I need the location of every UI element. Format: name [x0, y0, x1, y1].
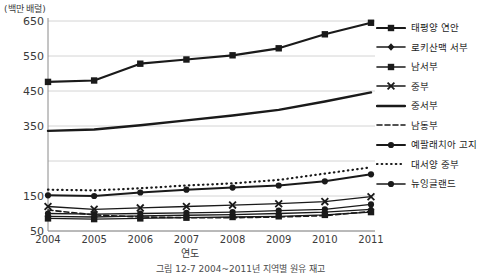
- chart-container: (백만 배럴) 65055045035015050 20042005200620…: [0, 0, 481, 273]
- legend-item-로키산맥 서부[interactable]: 로키산맥 서부: [376, 38, 481, 58]
- legend-item-중부[interactable]: 중부: [376, 77, 481, 97]
- legend-symbol-icon: [376, 119, 406, 131]
- legend-label: 남동부: [411, 121, 438, 131]
- legend-label: 대서양 중부: [411, 160, 459, 170]
- legend-label: 중부: [411, 82, 429, 92]
- series-예팔래치아 고지: [45, 171, 374, 199]
- y-axis-tick-450: 450: [4, 85, 44, 98]
- legend-item-남동부[interactable]: 남동부: [376, 116, 481, 136]
- x-axis-title: 연도: [0, 245, 380, 260]
- legend-item-대서양 중부[interactable]: 대서양 중부: [376, 155, 481, 175]
- y-axis-tick-550: 550: [4, 50, 44, 63]
- y-axis-tick-labels: 65055045035015050: [0, 0, 44, 273]
- legend-label: 뉴잉글랜드: [411, 179, 456, 189]
- legend-symbol-icon: [376, 100, 406, 112]
- x-axis-tick-2010: 2010: [303, 234, 347, 245]
- x-axis-tick-2006: 2006: [118, 234, 162, 245]
- legend-label: 예팔래치아 고지: [411, 140, 477, 150]
- series-대서양 중부: [48, 167, 371, 190]
- legend-label: 남서부: [411, 62, 438, 72]
- legend-symbol-icon: [376, 41, 406, 53]
- x-axis-tick-2004: 2004: [26, 234, 70, 245]
- x-axis-tick-2009: 2009: [257, 234, 301, 245]
- legend-label: 태평양 연안: [411, 23, 459, 33]
- legend-symbol-icon: [376, 22, 406, 34]
- series-태평양 연안: [45, 20, 374, 86]
- legend-symbol-icon: [376, 61, 406, 73]
- legend-item-예팔래치아 고지[interactable]: 예팔래치아 고지: [376, 135, 481, 155]
- series-중서부: [48, 92, 371, 130]
- chart-legend: 태평양 연안로키산맥 서부남서부중부중서부남동부예팔래치아 고지대서양 중부뉴잉…: [376, 18, 481, 194]
- legend-item-뉴잉글랜드[interactable]: 뉴잉글랜드: [376, 174, 481, 194]
- x-axis-tick-2011: 2011: [349, 234, 393, 245]
- legend-item-중서부[interactable]: 중서부: [376, 96, 481, 116]
- x-axis-tick-2007: 2007: [164, 234, 208, 245]
- legend-label: 로키산맥 서부: [411, 43, 468, 53]
- figure-caption: 그림 12-7 2004~2011년 지역별 원유 재고: [0, 262, 481, 273]
- legend-symbol-icon: [376, 158, 406, 170]
- legend-item-남서부[interactable]: 남서부: [376, 57, 481, 77]
- legend-symbol-icon: [376, 139, 406, 151]
- y-axis-tick-350: 350: [4, 120, 44, 133]
- legend-item-태평양 연안[interactable]: 태평양 연안: [376, 18, 481, 38]
- legend-label: 중서부: [411, 101, 438, 111]
- legend-symbol-icon: [376, 80, 406, 92]
- x-axis-tick-2005: 2005: [72, 234, 116, 245]
- x-axis-tick-2008: 2008: [211, 234, 255, 245]
- y-axis-tick-650: 650: [4, 15, 44, 28]
- y-axis-tick-150: 150: [4, 190, 44, 203]
- legend-symbol-icon: [376, 178, 406, 190]
